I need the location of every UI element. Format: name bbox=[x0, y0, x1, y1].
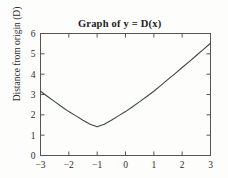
x-tick-label: 1 bbox=[151, 160, 156, 170]
y-axis-tick-labels: 0123456 bbox=[31, 29, 36, 161]
y-tick-label: 5 bbox=[31, 49, 36, 59]
x-tick-label: −1 bbox=[92, 160, 102, 170]
x-tick-label: 2 bbox=[180, 160, 185, 170]
y-tick-label: 2 bbox=[31, 110, 36, 120]
y-tick-label: 4 bbox=[31, 70, 36, 80]
x-tick-label: −3 bbox=[35, 160, 45, 170]
plot-frame bbox=[41, 34, 211, 156]
y-tick-label: 3 bbox=[31, 90, 36, 100]
y-axis-ticks bbox=[41, 34, 211, 156]
y-tick-label: 1 bbox=[31, 131, 36, 141]
plot-area: 0123456 −3−2−10123 bbox=[0, 0, 228, 178]
y-tick-label: 6 bbox=[31, 29, 36, 39]
x-axis-ticks bbox=[41, 34, 211, 156]
x-tick-label: −2 bbox=[64, 160, 74, 170]
x-axis-tick-labels: −3−2−10123 bbox=[35, 160, 213, 170]
data-curve bbox=[41, 43, 211, 127]
chart-figure: Graph of y = D(x) Distance from origin (… bbox=[0, 0, 228, 178]
x-tick-label: 3 bbox=[208, 160, 213, 170]
x-tick-label: 0 bbox=[123, 160, 128, 170]
